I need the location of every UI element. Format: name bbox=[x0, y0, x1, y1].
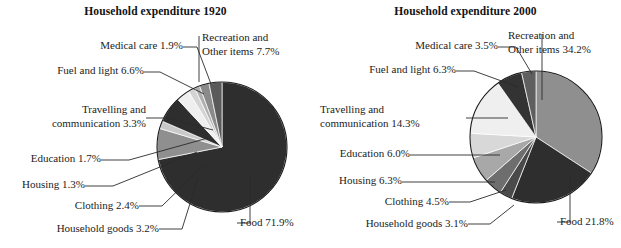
label-clothing-2000: Clothing 4.5% bbox=[310, 195, 449, 209]
label-fuel-and-light-1920: Fuel and light 6.6% bbox=[0, 64, 144, 78]
label-medical-care-1920: Medical care 1.9% bbox=[0, 39, 183, 53]
label-clothing-1920: Clothing 2.4% bbox=[0, 199, 139, 213]
label-education-2000: Education 6.0% bbox=[310, 147, 410, 161]
label-food-1920: Food 71.9% bbox=[240, 216, 294, 230]
pie-slices-2000 bbox=[470, 71, 602, 203]
label-household-goods-2000: Household goods 3.1% bbox=[310, 217, 468, 231]
label-housing-1920: Housing 1.3% bbox=[0, 178, 85, 192]
label-travelling-2000: Travelling and communication 14.3% bbox=[320, 103, 420, 130]
label-recreation-1920: Recreation and Other items 7.7% bbox=[202, 31, 279, 58]
label-medical-care-2000: Medical care 3.5% bbox=[310, 39, 498, 53]
label-recreation-2000: Recreation and Other items 34.2% bbox=[508, 29, 591, 56]
chart-panel-2000: Household expenditure 2000 Medical care … bbox=[310, 0, 621, 248]
label-food-2000: Food 21.8% bbox=[560, 215, 614, 229]
label-household-goods-1920: Household goods 3.2% bbox=[0, 222, 159, 236]
label-housing-2000: Housing 6.3% bbox=[310, 174, 402, 188]
label-travelling-1920: Travelling and communication 3.3% bbox=[0, 103, 146, 130]
chart-panel-1920: Household expenditure 1920 Medical care … bbox=[0, 0, 311, 248]
label-fuel-and-light-2000: Fuel and light 6.3% bbox=[310, 63, 456, 77]
label-education-1920: Education 1.7% bbox=[0, 152, 101, 166]
